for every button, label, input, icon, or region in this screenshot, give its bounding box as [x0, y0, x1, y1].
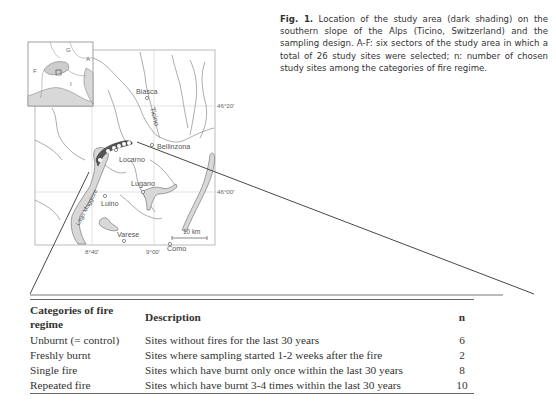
header-description: Description [145, 300, 450, 334]
caption-figure-label: Fig. 1. [280, 14, 313, 24]
label-locarno: Locarno [119, 155, 145, 164]
label-varese: Varese [117, 230, 139, 239]
cell-n: 8 [450, 363, 474, 378]
cell-n: 2 [450, 348, 474, 363]
cell-n: 6 [450, 333, 474, 348]
coord-lat-46-20: 46°20' [217, 102, 234, 109]
label-como: Como [167, 244, 186, 253]
cell-description: Sites where sampling started 1-2 weeks a… [145, 348, 450, 363]
table-row: Single fire Sites which have burnt only … [30, 363, 474, 378]
cell-description: Sites without fires for the last 30 year… [145, 333, 450, 348]
cell-description: Sites which have burnt 3-4 times within … [145, 378, 450, 394]
coord-lon-8-40: 8°40' [85, 248, 99, 255]
cell-category: Repeated fire [30, 378, 145, 394]
cell-category: Freshly burnt [30, 348, 145, 363]
figure-caption: Fig. 1. Location of the study area (dark… [280, 13, 548, 74]
cell-n: 10 [450, 378, 474, 394]
cell-category: Single fire [30, 363, 145, 378]
table-header-row: Categories of fire regime Description n [30, 300, 474, 334]
svg-text:G: G [66, 47, 71, 53]
table-row: Unburnt (= control) Sites without fires … [30, 333, 474, 348]
cell-category: Unburnt (= control) [30, 333, 145, 348]
fire-regime-table: Categories of fire regime Description n … [30, 299, 474, 394]
svg-text:10 km: 10 km [183, 228, 200, 235]
label-biasca: Biasca [136, 87, 158, 96]
svg-text:A: A [86, 56, 90, 62]
table-row: Repeated fire Sites which have burnt 3-4… [30, 378, 474, 394]
label-luino: Luino [101, 199, 119, 208]
coord-lat-46-00: 46°00' [217, 188, 234, 195]
table-row: Freshly burnt Sites where sampling start… [30, 348, 474, 363]
header-n: n [450, 300, 474, 334]
figure: G A F I Biasca Ticino Bellinzona Locarno… [0, 0, 556, 412]
cell-description: Sites which have burnt only once within … [145, 363, 450, 378]
label-lugano: Lugano [131, 179, 155, 188]
coord-lon-9-00: 9°00' [146, 248, 160, 255]
svg-text:F: F [33, 68, 37, 74]
label-bellinzona: Bellinzona [157, 142, 190, 151]
header-category: Categories of fire regime [30, 300, 145, 334]
caption-text: Location of the study area (dark shading… [280, 14, 548, 73]
inset-map: G A F I [28, 42, 93, 106]
